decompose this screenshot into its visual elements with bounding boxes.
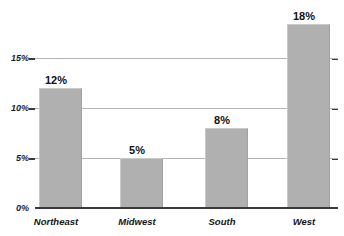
x-category-label-west: West — [264, 216, 344, 227]
y-tick-label-0: 0% — [16, 203, 29, 213]
bar-chart: 15% 10% 5% 0% 12% 5% 8% 18% Northeast Mi… — [0, 0, 344, 236]
y-axis-labels: 15% 10% 5% 0% — [0, 0, 29, 236]
x-axis-line — [35, 207, 338, 209]
bar-west — [287, 24, 330, 208]
y-tick-label-15: 15% — [11, 53, 29, 63]
y-tick-label-5: 5% — [16, 153, 29, 163]
value-label-west: 18% — [272, 10, 336, 22]
y-tick-label-10: 10% — [11, 103, 29, 113]
plot-area — [35, 14, 338, 208]
bar-northeast — [39, 88, 82, 208]
value-label-northeast: 12% — [24, 74, 88, 86]
bar-south — [205, 128, 248, 208]
bar-midwest — [120, 158, 163, 208]
value-label-midwest: 5% — [105, 144, 169, 156]
value-label-south: 8% — [190, 114, 254, 126]
x-category-label-south: South — [182, 216, 262, 227]
x-category-label-northeast: Northeast — [16, 216, 96, 227]
x-category-label-midwest: Midwest — [97, 216, 177, 227]
